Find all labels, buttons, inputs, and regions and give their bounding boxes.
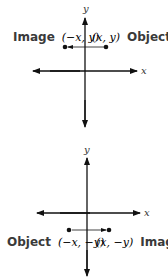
x-axis-label: x [144,207,150,218]
bottom-left-label: Object (−x, −y) [7,232,104,249]
object-word: Object [7,235,51,249]
object-point [67,228,72,233]
object-word: Object [127,30,168,44]
x-axis-label: x [141,65,147,76]
top-diagram: y x Image (−x, y) (x, y) Object [13,3,168,127]
object-coords: (x, y) [92,31,120,44]
top-right-label: (x, y) Object [92,27,168,44]
y-axis-label: y [83,144,90,155]
image-word: Image [13,30,55,44]
image-word: Image [140,235,168,249]
image-point [63,45,68,50]
bottom-diagram: y x Object (−x, −y) (x, −y) Image [7,144,168,276]
top-left-label: Image (−x, y) [13,27,99,44]
diagram-canvas: y x Image (−x, y) (x, y) Object y x Obje… [0,0,168,278]
image-coords: (x, −y) [96,236,133,249]
bottom-right-label: (x, −y) Image [96,232,168,249]
image-point [107,228,112,233]
y-axis-label: y [82,3,89,14]
object-point [104,45,109,50]
